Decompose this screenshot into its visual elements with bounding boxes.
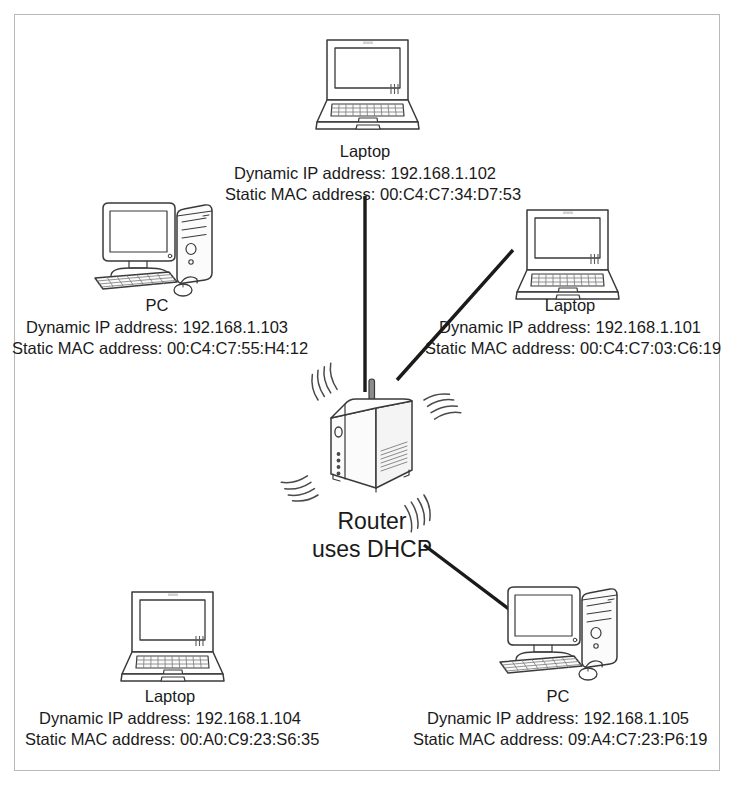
network-diagram-canvas: Laptop Dynamic IP address: 192.168.1.102… [0,0,734,794]
node-mac-laptop-right: Static MAC address: 00:C4:C7:03:C6:19 [425,338,715,360]
node-label-laptop-top: Laptop Dynamic IP address: 192.168.1.102… [225,141,505,206]
node-ip-laptop-bottom-left: Dynamic IP address: 192.168.1.104 [25,708,315,730]
node-type-pc-bottom-right: PC [413,686,703,708]
router-name: Router [282,507,462,535]
node-mac-pc-left: Static MAC address: 00:C4:C7:55:H4:12 [12,338,302,360]
laptop-icon-top [305,28,430,138]
node-ip-pc-bottom-right: Dynamic IP address: 192.168.1.105 [413,708,703,730]
node-type-pc-left: PC [12,295,302,317]
node-type-laptop-bottom-left: Laptop [25,686,315,708]
node-label-pc-left: PC Dynamic IP address: 192.168.1.103 Sta… [12,295,302,360]
node-ip-laptop-right: Dynamic IP address: 192.168.1.101 [425,317,715,339]
laptop-icon-bottom-left [110,580,235,690]
desktop-pc-icon-bottom-right [490,572,625,684]
laptop-icon-right [505,198,630,308]
node-label-laptop-right: Laptop Dynamic IP address: 192.168.1.101… [425,295,715,360]
router-subtitle: uses DHCP [282,535,462,563]
node-mac-laptop-bottom-left: Static MAC address: 00:A0:C9:23:S6:35 [25,729,315,751]
router-label: Router uses DHCP [282,507,462,563]
node-type-laptop-top: Laptop [225,141,505,163]
node-type-laptop-right: Laptop [425,295,715,317]
node-label-laptop-bottom-left: Laptop Dynamic IP address: 192.168.1.104… [25,686,315,751]
node-ip-pc-left: Dynamic IP address: 192.168.1.103 [12,317,302,339]
node-label-pc-bottom-right: PC Dynamic IP address: 192.168.1.105 Sta… [413,686,703,751]
node-ip-laptop-top: Dynamic IP address: 192.168.1.102 [225,163,505,185]
node-mac-pc-bottom-right: Static MAC address: 09:A4:C7:23:P6:19 [413,729,703,751]
node-mac-laptop-top: Static MAC address: 00:C4:C7:34:D7:53 [225,184,505,206]
desktop-pc-icon-left [85,188,220,300]
